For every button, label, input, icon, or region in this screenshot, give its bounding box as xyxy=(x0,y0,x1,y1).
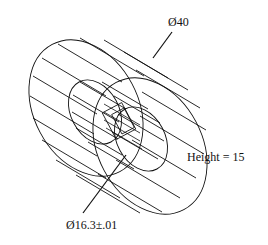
inner-bore xyxy=(58,71,178,181)
inner-diameter-label: Ø16.3±.01 xyxy=(66,219,117,231)
inner-diameter-leader xyxy=(83,155,126,213)
outer-diameter-label: Ø40 xyxy=(168,16,189,28)
height-label: Height = 15 xyxy=(187,151,244,163)
cylinder-wireframe-drawing xyxy=(0,0,268,245)
outer-diameter-leader xyxy=(153,32,172,58)
